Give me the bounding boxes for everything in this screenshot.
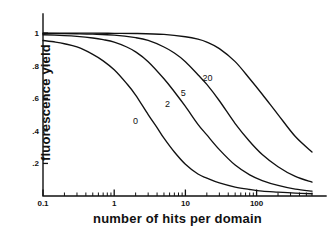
curve-label-20: 20: [203, 73, 213, 83]
x-tick-label: 100: [250, 199, 264, 208]
data-curve-2: [43, 35, 312, 191]
curve-label-0: 0: [133, 116, 138, 126]
curve-labels-group: 02520: [133, 73, 212, 126]
data-curve-5: [43, 33, 312, 182]
x-tick-label: 1: [112, 199, 117, 208]
x-tick-label: 10: [181, 199, 190, 208]
data-curves-group: [43, 33, 312, 194]
curve-label-2: 2: [165, 99, 170, 109]
y-axis-title: fluorescence yield: [38, 23, 53, 183]
x-tick-label: 0.1: [37, 199, 49, 208]
curve-label-5: 5: [181, 88, 186, 98]
data-curve-20: [43, 33, 312, 152]
data-curve-0: [43, 40, 312, 193]
ticks-group: [43, 33, 312, 196]
figure-container: 1.8.6.4.20.1110100 02520 fluorescence yi…: [0, 0, 329, 235]
x-axis-title: number of hits per domain: [43, 211, 312, 226]
